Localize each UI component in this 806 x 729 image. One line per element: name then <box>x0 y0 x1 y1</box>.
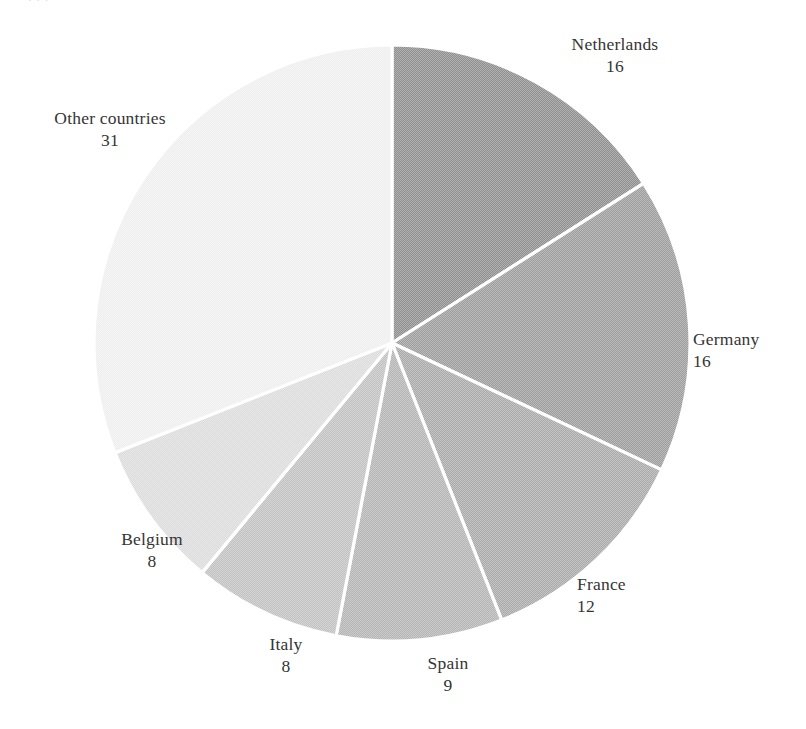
pie-label-germany-name: Germany <box>693 329 803 351</box>
pie-label-netherlands-value: 16 <box>535 56 695 78</box>
pie-label-france-value: 12 <box>577 596 687 618</box>
pie-label-italy-name: Italy <box>236 634 336 656</box>
pie-label-france-name: France <box>577 574 687 596</box>
chart-page: · · · Netherlands 16 Germany 16 France <box>0 0 806 729</box>
pie-label-other-countries-value: 31 <box>20 130 200 152</box>
pie-label-belgium-value: 8 <box>92 551 212 573</box>
pie-label-netherlands-name: Netherlands <box>535 34 695 56</box>
pie-label-germany: Germany 16 <box>693 329 803 373</box>
pie-label-belgium: Belgium 8 <box>92 529 212 573</box>
pie-label-belgium-name: Belgium <box>92 529 212 551</box>
pie-label-spain: Spain 9 <box>398 653 498 697</box>
pie-label-spain-value: 9 <box>398 675 498 697</box>
pie-label-france: France 12 <box>577 574 687 618</box>
pie-label-other-countries: Other countries 31 <box>20 108 200 152</box>
pie-label-netherlands: Netherlands 16 <box>535 34 695 78</box>
pie-label-germany-value: 16 <box>693 351 803 373</box>
pie-label-spain-name: Spain <box>398 653 498 675</box>
pie-label-italy: Italy 8 <box>236 634 336 678</box>
pie-label-other-countries-name: Other countries <box>20 108 200 130</box>
pie-label-italy-value: 8 <box>236 656 336 678</box>
